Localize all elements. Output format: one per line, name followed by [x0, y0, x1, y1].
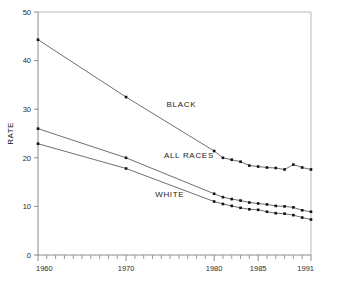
x-tick-label: 1991 [297, 264, 314, 273]
data-point [310, 168, 313, 171]
data-point [266, 166, 269, 169]
y-tick-label: 40 [23, 56, 31, 65]
chart-container: 01020304050 19601970198019851991 BLACKAL… [0, 0, 345, 289]
data-point [283, 168, 286, 171]
data-point [37, 142, 40, 145]
series-label-white: WHITE [155, 190, 184, 199]
data-point [274, 212, 277, 215]
series-label-black: BLACK [167, 100, 197, 109]
series-annotations: BLACKALL RACESWHITE [155, 100, 214, 198]
y-tick-label: 30 [23, 105, 31, 114]
data-point [310, 210, 313, 213]
y-tick-label: 10 [23, 202, 31, 211]
data-point [37, 38, 40, 41]
data-point [125, 167, 128, 170]
line-chart: 01020304050 19601970198019851991 BLACKAL… [0, 0, 345, 289]
plot-frame [38, 12, 311, 255]
x-tick-label: 1960 [36, 264, 53, 273]
x-tick-label: 1985 [250, 264, 267, 273]
data-point [283, 212, 286, 215]
y-axis-title-text: RATE [6, 122, 15, 144]
data-point [248, 201, 251, 204]
data-point [301, 209, 304, 212]
data-point [222, 196, 225, 199]
data-point [292, 163, 295, 166]
data-point [257, 165, 260, 168]
data-point [301, 216, 304, 219]
data-point [283, 205, 286, 208]
data-point [266, 210, 269, 213]
y-tick-label: 20 [23, 154, 31, 163]
x-axis-ticks [38, 255, 311, 261]
data-point [274, 167, 277, 170]
data-point [222, 203, 225, 206]
data-point [239, 199, 242, 202]
data-point [257, 209, 260, 212]
data-point [213, 200, 216, 203]
data-point [213, 192, 216, 195]
series-all-races [37, 127, 313, 213]
y-axis-tick-labels: 01020304050 [23, 8, 31, 260]
data-point [301, 166, 304, 169]
x-axis-tick-labels: 19601970198019851991 [36, 264, 314, 273]
data-point [248, 164, 251, 167]
data-point [230, 198, 233, 201]
data-point [292, 206, 295, 209]
data-point [125, 96, 128, 99]
data-point [266, 203, 269, 206]
data-point [274, 205, 277, 208]
y-axis-ticks [34, 12, 38, 255]
data-point [248, 208, 251, 211]
series-label-all-races: ALL RACES [164, 151, 214, 160]
data-point [239, 160, 242, 163]
data-point [239, 207, 242, 210]
data-point [125, 157, 128, 160]
data-point [230, 205, 233, 208]
data-point [37, 127, 40, 130]
y-tick-label: 50 [23, 8, 31, 17]
x-tick-label: 1970 [118, 264, 135, 273]
data-point [292, 214, 295, 217]
data-point [257, 202, 260, 205]
data-point [222, 157, 225, 160]
x-tick-label: 1980 [206, 264, 223, 273]
y-tick-label: 0 [27, 251, 31, 260]
data-point [310, 218, 313, 221]
data-point [230, 158, 233, 161]
y-axis-title: RATE [6, 122, 15, 144]
